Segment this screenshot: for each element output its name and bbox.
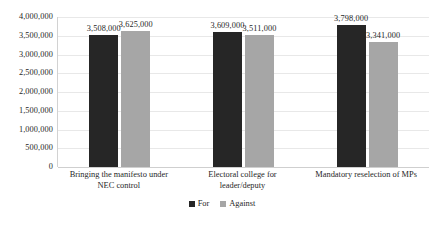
- y-axis-tick-labels: 4,000,0003,500,0003,000,0002,500,0002,00…: [0, 12, 53, 170]
- y-axis-tick-label: 3,500,000: [0, 31, 53, 40]
- legend-item-for[interactable]: For: [189, 199, 210, 208]
- plot-area: 3,508,0003,625,0003,609,0003,511,0003,79…: [57, 17, 429, 167]
- bar-for[interactable]: [337, 25, 366, 167]
- legend-label: For: [198, 199, 210, 208]
- bar-chart: 4,000,0003,500,0003,000,0002,500,0002,00…: [0, 0, 444, 227]
- legend-label: Against: [229, 199, 255, 208]
- legend-item-against[interactable]: Against: [220, 199, 255, 208]
- bar-group: 3,508,0003,625,000: [89, 17, 150, 167]
- category-label-line: Mandatory reselection of MPs: [296, 170, 436, 181]
- axis-baseline: [58, 167, 429, 168]
- bar-against[interactable]: [121, 31, 150, 167]
- y-axis-tick-label: 4,000,000: [0, 12, 53, 21]
- bar-value-label: 3,625,000: [113, 20, 158, 29]
- bar-against[interactable]: [369, 42, 398, 167]
- category-label-line: Bringing the manifesto under: [49, 170, 189, 181]
- y-axis-tick-label: 2,500,000: [0, 68, 53, 77]
- bar-group: 3,798,0003,341,000: [337, 17, 398, 167]
- y-axis-tick-label: 500,000: [0, 143, 53, 152]
- bar-for[interactable]: [89, 35, 118, 167]
- chart-legend: ForAgainst: [0, 199, 444, 208]
- bar-value-label: 3,341,000: [361, 31, 406, 40]
- x-axis-category-label: Bringing the manifesto underNEC control: [49, 170, 189, 191]
- x-axis-category-label: Electoral college forleader/deputy: [173, 170, 313, 191]
- y-axis-tick-label: 0: [0, 162, 53, 171]
- bar-value-label: 3,798,000: [329, 14, 374, 23]
- bar-group: 3,609,0003,511,000: [213, 17, 274, 167]
- legend-swatch-icon: [220, 201, 226, 207]
- x-axis-category-labels: Bringing the manifesto underNEC controlE…: [57, 170, 428, 198]
- bar-value-label: 3,511,000: [237, 24, 282, 33]
- bar-against[interactable]: [245, 35, 274, 167]
- y-axis-tick-label: 3,000,000: [0, 50, 53, 59]
- y-axis-tick-label: 1,000,000: [0, 125, 53, 134]
- x-axis-category-label: Mandatory reselection of MPs: [296, 170, 436, 181]
- legend-swatch-icon: [189, 201, 195, 207]
- category-label-line: leader/deputy: [173, 181, 313, 192]
- category-label-line: NEC control: [49, 181, 189, 192]
- y-axis-tick-label: 1,500,000: [0, 106, 53, 115]
- bar-for[interactable]: [213, 32, 242, 167]
- y-axis-tick-label: 2,000,000: [0, 87, 53, 96]
- category-label-line: Electoral college for: [173, 170, 313, 181]
